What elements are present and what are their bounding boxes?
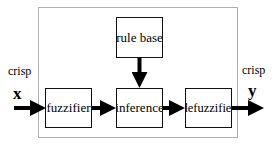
defuzzifier-block: defuzzifier (185, 88, 232, 128)
fuzzifier-block: fuzzifier (45, 88, 92, 128)
rule-base-block: rule base (116, 17, 163, 58)
input-crisp-label: crisp (8, 64, 31, 79)
defuzzifier-label: defuzzifier (185, 101, 232, 116)
output-crisp-label: crisp (242, 63, 265, 78)
inference-block: inference (116, 88, 163, 128)
input-variable-x: x (13, 84, 22, 104)
rule-base-label: rule base (116, 30, 163, 46)
inference-label: inference (116, 100, 163, 116)
fuzzifier-label: fuzzifier (46, 100, 90, 116)
output-variable-y: y (248, 81, 257, 101)
